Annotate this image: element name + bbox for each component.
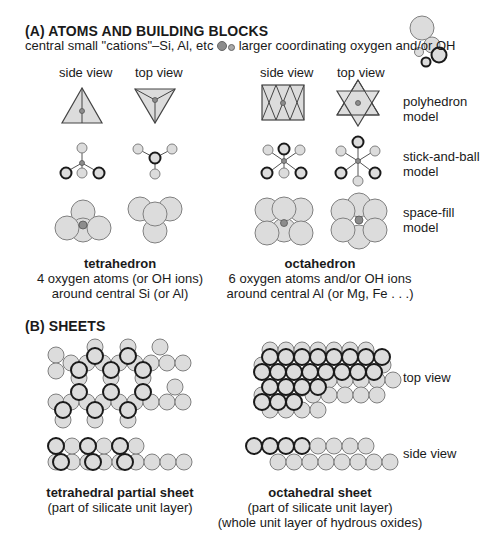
sheet-top-view-label: top view [403,370,451,385]
octahedron-stickball-side [262,144,307,179]
octahedral-sheet-top-view [254,342,401,418]
tetrahedron-polyhedron-top [135,89,175,123]
octahedron-spacefill-side [255,197,313,245]
tetra-side-view-label: side view [59,65,112,80]
octahedral-sheet-title: octahedral sheet [215,485,425,500]
octahedron-stickball-top [336,137,381,187]
tetrahedron-spacefill-side [55,200,111,242]
octahedron-polyhedron-side [262,85,304,120]
octahedron-caption: octahedron 6 oxygen atoms and/or OH ions… [215,256,425,301]
row-label-spacefill: space-fill model [403,205,454,235]
row-label-polyhedron: polyhedron model [403,94,467,124]
octahedron-polyhedron-top [337,80,379,126]
tetra-top-view-label: top view [135,65,183,80]
legend-text-oxygen: larger coordinating oxygen and/or OH [239,38,456,53]
sheet-side-view-label: side view [403,446,456,461]
tetrahedron-polyhedron-side [62,88,102,123]
cation-small-icon [228,44,235,51]
octahedron-spacefill-top [331,193,387,249]
tetrahedron-title: tetrahedron [20,256,220,271]
octahedron-title: octahedron [215,256,425,271]
octa-top-view-label: top view [337,65,385,80]
section-a-heading: (A) ATOMS AND BUILDING BLOCKS [25,23,268,39]
tetrahedral-sheet-caption: tetrahedral partial sheet (part of silic… [20,485,220,515]
octahedral-sheet-side-view [246,438,398,470]
tetrahedron-spacefill-top [128,197,182,243]
tetrahedron-stickball-top [133,144,177,179]
tetrahedral-sheet-title: tetrahedral partial sheet [20,485,220,500]
section-b-heading: (B) SHEETS [25,318,105,334]
legend-line: central small "cations"–Si, Al, etc larg… [25,38,455,53]
tetrahedral-sheet-side-view [48,438,192,470]
tetrahedron-stickball-side [61,143,105,179]
octa-side-view-label: side view [260,65,313,80]
tetrahedron-caption: tetrahedron 4 oxygen atoms (or OH ions) … [20,256,220,301]
tetrahedral-sheet-top-view [48,339,191,428]
octahedral-sheet-caption: octahedral sheet (part of silicate unit … [215,485,425,530]
legend-text-cations: central small "cations"–Si, Al, etc [25,38,213,53]
cation-large-icon [217,41,227,51]
row-label-stickball: stick-and-ball model [403,149,480,179]
